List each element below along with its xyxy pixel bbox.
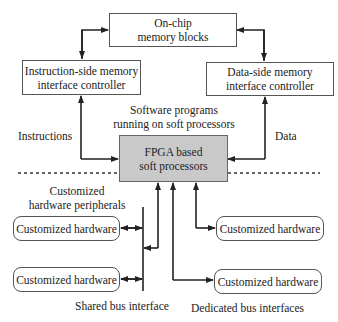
data-label: Data — [275, 129, 297, 143]
hw-right-1-node: Customized hardware — [216, 216, 324, 241]
peripherals-label: Customized hardware peripherals — [22, 184, 132, 212]
shared-bus-label: Shared bus interface — [75, 299, 169, 313]
software-programs-label: Software programs running on soft proces… — [112, 103, 236, 131]
hw-right-2-node: Customized hardware — [214, 269, 322, 294]
data-controller-node: Data-side memory interface controller — [206, 62, 334, 96]
instructions-label: Instructions — [18, 129, 72, 143]
hw-left-1-node: Customized hardware — [13, 216, 120, 241]
fpga-processors-node: FPGA based soft processors — [119, 135, 228, 182]
onchip-memory-node: On-chip memory blocks — [109, 13, 237, 47]
dedicated-bus-label: Dedicated bus interfaces — [191, 301, 304, 315]
instruction-controller-node: Instruction-side memory interface contro… — [22, 60, 141, 95]
hw-left-2-node: Customized hardware — [13, 267, 120, 292]
